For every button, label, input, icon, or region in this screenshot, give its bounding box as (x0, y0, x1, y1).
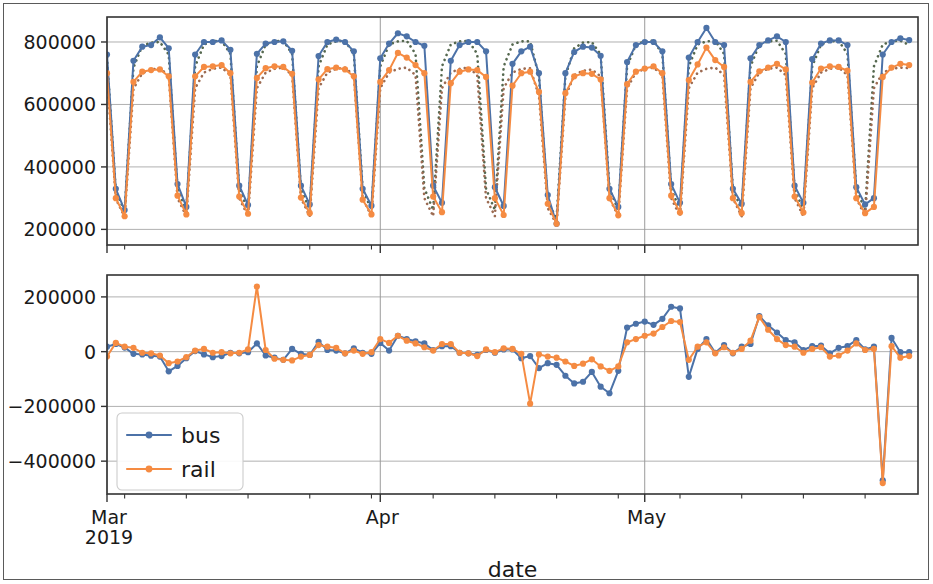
data-point (421, 43, 427, 49)
data-point (871, 346, 877, 352)
data-point (571, 73, 577, 79)
data-point (201, 39, 207, 45)
data-point (439, 341, 445, 347)
data-point (571, 363, 577, 369)
data-point (756, 42, 762, 48)
data-point (448, 58, 454, 64)
data-point (818, 40, 824, 46)
data-point (130, 345, 136, 351)
data-point (589, 71, 595, 77)
data-point (721, 42, 727, 48)
data-point (598, 76, 604, 82)
data-point (183, 211, 189, 217)
data-point (139, 44, 145, 50)
data-point (853, 340, 859, 346)
data-point (659, 48, 665, 54)
data-point (245, 211, 251, 217)
data-point (157, 66, 163, 72)
data-point (280, 38, 286, 44)
data-point (642, 333, 648, 339)
data-point (201, 346, 207, 352)
data-point (509, 83, 515, 89)
data-point (650, 322, 656, 328)
data-point (800, 209, 806, 215)
data-point (800, 350, 806, 356)
data-point (210, 350, 216, 356)
data-point (668, 318, 674, 324)
data-point (844, 347, 850, 353)
data-point (730, 195, 736, 201)
data-point (703, 25, 709, 31)
data-point (412, 39, 418, 45)
data-point (280, 357, 286, 363)
data-point (836, 64, 842, 70)
data-point (192, 51, 198, 57)
data-point (844, 42, 850, 48)
data-point (747, 55, 753, 61)
data-point (686, 374, 692, 380)
data-point (571, 49, 577, 55)
data-point (721, 344, 727, 350)
data-point (448, 80, 454, 86)
data-point (130, 351, 136, 357)
data-point (686, 357, 692, 363)
data-point (263, 65, 269, 71)
data-point (509, 61, 515, 67)
y-tick-label: 400000 (23, 156, 96, 178)
data-point (465, 66, 471, 72)
data-point (562, 373, 568, 379)
data-point (650, 63, 656, 69)
data-point (527, 401, 533, 407)
data-point (360, 197, 366, 203)
data-point (836, 352, 842, 358)
data-point (377, 79, 383, 85)
data-point (130, 79, 136, 85)
data-point (130, 58, 136, 64)
series-group (104, 25, 912, 227)
data-point (836, 37, 842, 43)
data-point (289, 48, 295, 54)
data-point (553, 355, 559, 361)
data-point (227, 47, 233, 53)
data-point (324, 66, 330, 72)
data-point (192, 347, 198, 353)
x-axis-title: date (488, 557, 538, 582)
data-point (342, 39, 348, 45)
data-point (589, 356, 595, 362)
data-point (333, 345, 339, 351)
data-point (774, 329, 780, 335)
data-point (298, 194, 304, 200)
data-point (818, 344, 824, 350)
data-point (747, 79, 753, 85)
data-point (254, 51, 260, 57)
data-point (254, 283, 260, 289)
data-point (386, 340, 392, 346)
data-point (695, 344, 701, 350)
data-point (457, 350, 463, 356)
data-point (527, 69, 533, 75)
data-point (219, 62, 225, 68)
data-point (739, 210, 745, 216)
data-point (897, 61, 903, 67)
data-point (756, 314, 762, 320)
data-point (633, 321, 639, 327)
data-point (888, 343, 894, 349)
legend-background (117, 413, 243, 490)
data-point (219, 37, 225, 43)
data-point (791, 193, 797, 199)
data-point (315, 53, 321, 59)
data-point (836, 345, 842, 351)
data-point (553, 362, 559, 368)
data-point (263, 347, 269, 353)
data-point (888, 65, 894, 71)
data-point (598, 384, 604, 390)
y-tick-label: 0 (84, 341, 96, 363)
data-point (695, 39, 701, 45)
data-point (888, 335, 894, 341)
data-point (333, 65, 339, 71)
data-point (227, 70, 233, 76)
data-point (483, 74, 489, 80)
data-point (827, 63, 833, 69)
data-point (880, 51, 886, 57)
data-point (474, 353, 480, 359)
